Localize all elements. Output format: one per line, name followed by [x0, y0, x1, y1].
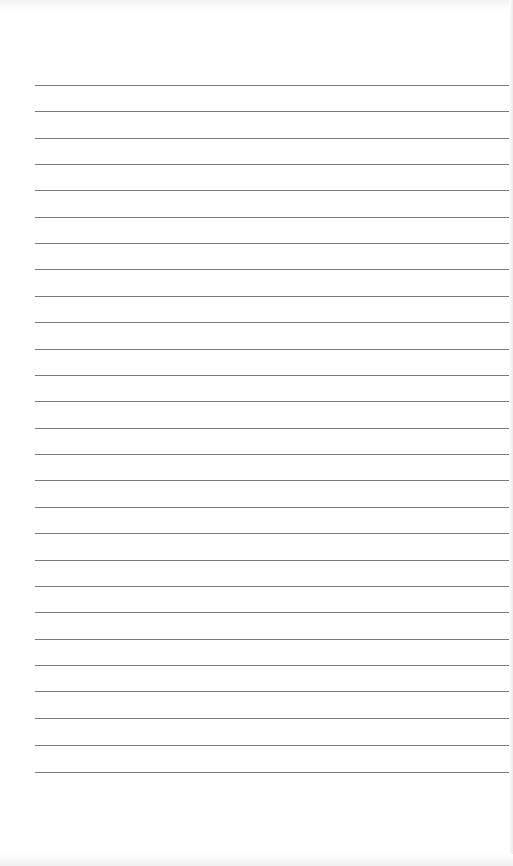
ruled-line: [35, 243, 513, 244]
ruled-line: [35, 454, 513, 455]
ruled-line: [35, 480, 513, 481]
ruled-line: [35, 85, 513, 86]
ruled-line: [35, 375, 513, 376]
ruled-line: [35, 772, 513, 773]
ruled-line: [35, 217, 513, 218]
ruled-line: [35, 533, 513, 534]
page-top-edge: [0, 0, 513, 10]
ruled-line: [35, 639, 513, 640]
ruled-line: [35, 612, 513, 613]
ruled-line: [35, 745, 513, 746]
ruled-line: [35, 586, 513, 587]
ruled-line: [35, 269, 513, 270]
ruled-line: [35, 190, 513, 191]
page-bottom-edge: [0, 854, 513, 866]
page-right-edge: [509, 0, 513, 866]
ruled-line: [35, 507, 513, 508]
ruled-line: [35, 322, 513, 323]
ruled-line: [35, 428, 513, 429]
ruled-line: [35, 164, 513, 165]
ruled-line: [35, 296, 513, 297]
ruled-line: [35, 111, 513, 112]
ruled-line: [35, 138, 513, 139]
ruled-line: [35, 560, 513, 561]
ruled-line: [35, 665, 513, 666]
ruled-line: [35, 691, 513, 692]
ruled-line: [35, 349, 513, 350]
ruled-line: [35, 401, 513, 402]
ruled-line: [35, 718, 513, 719]
